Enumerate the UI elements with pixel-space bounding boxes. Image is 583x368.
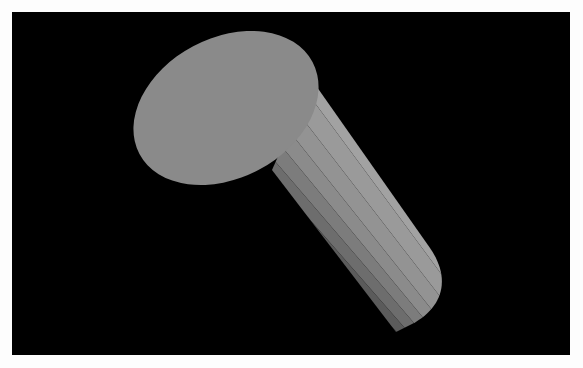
page bbox=[0, 0, 583, 368]
cylinder-render bbox=[12, 12, 570, 355]
render-viewport bbox=[12, 12, 570, 355]
